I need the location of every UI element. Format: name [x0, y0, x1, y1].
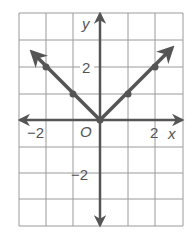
- origin-label: O: [80, 123, 92, 140]
- x-axis-label: x: [167, 125, 176, 142]
- y-tick-2: 2: [82, 59, 90, 76]
- y-tick-neg2: −2: [71, 166, 88, 183]
- graph: 2 −2 −2 2 x y O: [0, 0, 186, 236]
- y-axis-label: y: [81, 15, 91, 32]
- x-tick-neg2: −2: [27, 124, 44, 141]
- curve: [32, 48, 172, 120]
- x-tick-2: 2: [150, 124, 158, 141]
